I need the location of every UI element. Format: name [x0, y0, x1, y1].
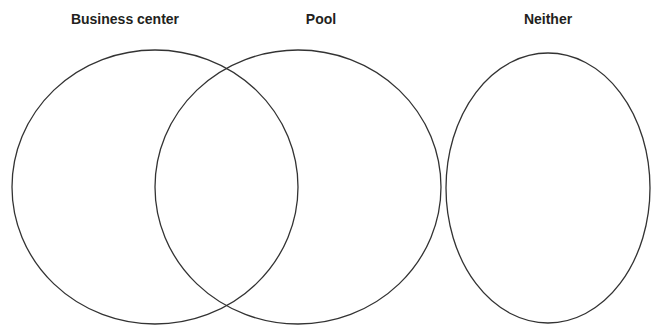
- venn-diagram: Business center Pool Neither: [0, 0, 659, 335]
- ellipse-neither: [446, 53, 650, 323]
- venn-shapes: [0, 0, 659, 335]
